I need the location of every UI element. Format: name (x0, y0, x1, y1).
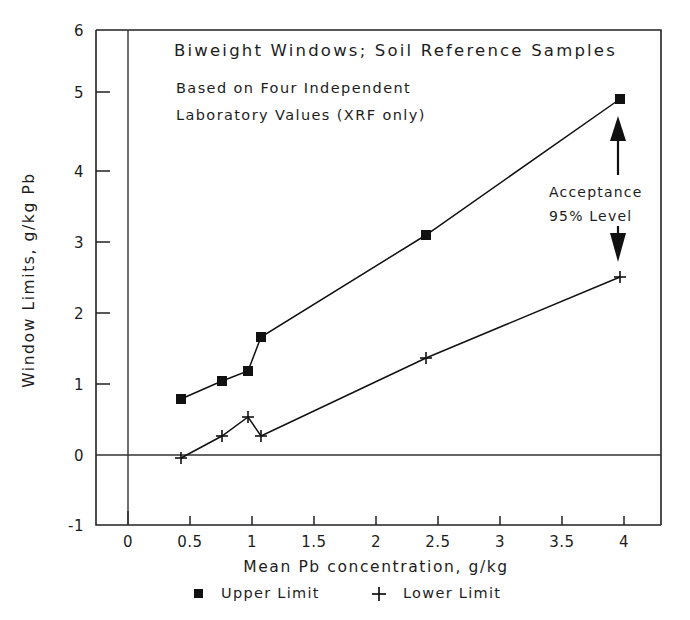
chart-figure: 6 5 4 3 2 1 0 -1 0 0.5 1 1.5 2 (0, 0, 690, 620)
y-axis-title: Window Limits, g/kg Pb (20, 172, 38, 388)
y-axis-ticks (96, 92, 110, 384)
x-axis-title: Mean Pb concentration, g/kg (243, 558, 509, 576)
x-tick-label-1: 1 (247, 533, 257, 551)
y-tick-label-3: 3 (74, 234, 84, 252)
annotation-label-line-2: 95% Level (549, 208, 632, 224)
annotation-label-line-1: Acceptance (549, 184, 642, 200)
x-tick-label-4: 4 (619, 533, 629, 551)
data-point-marker (421, 230, 431, 240)
chart-title: Biweight Windows; Soil Reference Samples (174, 41, 617, 60)
y-tick-label-2: 2 (74, 305, 84, 323)
data-point-marker (256, 332, 266, 342)
x-tick-label-1.5: 1.5 (301, 533, 326, 551)
y-tick-label-1: 1 (74, 376, 84, 394)
chart-subtitle-line-1: Based on Four Independent (176, 80, 411, 96)
x-tick-label-0.5: 0.5 (177, 533, 202, 551)
y-tick-label-0: 0 (74, 447, 84, 465)
data-point-marker (217, 376, 227, 386)
y-tick-label-4: 4 (74, 163, 84, 181)
x-tick-label-2: 2 (371, 533, 381, 551)
y-tick-label-neg1: -1 (68, 517, 84, 535)
axis-frame-left-bottom (96, 30, 661, 525)
x-tick-label-0: 0 (123, 533, 133, 551)
x-tick-label-3: 3 (495, 533, 505, 551)
annotation-down-arrow-head (610, 233, 626, 262)
series-upper-limit (176, 94, 625, 404)
legend-marker-square-icon (194, 589, 203, 598)
x-axis-ticks (128, 511, 624, 525)
x-tick-label-2.5: 2.5 (425, 533, 450, 551)
y-axis-tick-labels: 6 5 4 3 2 1 0 -1 (68, 22, 84, 535)
chart-subtitle-line-2: Laboratory Values (XRF only) (176, 107, 426, 123)
data-point-marker (243, 366, 253, 376)
chart-svg: 6 5 4 3 2 1 0 -1 0 0.5 1 1.5 2 (0, 0, 690, 620)
y-tick-label-5: 5 (74, 84, 84, 102)
axis-frame-top-right (96, 30, 661, 525)
series-upper-limit-line (181, 99, 620, 399)
acceptance-annotation: Acceptance 95% Level (549, 116, 642, 262)
lower-limit-markers (175, 271, 626, 464)
chart-legend: Upper Limit Lower Limit (194, 585, 501, 601)
annotation-up-arrow-head (610, 116, 626, 141)
series-lower-limit (175, 271, 626, 464)
plot-frame (96, 30, 661, 525)
legend-marker-plus-icon (372, 587, 386, 601)
legend-label-upper-limit: Upper Limit (221, 585, 320, 601)
data-point-marker (615, 94, 625, 104)
legend-label-lower-limit: Lower Limit (403, 585, 501, 601)
data-point-marker (176, 394, 186, 404)
y-tick-label-6: 6 (74, 22, 84, 40)
x-tick-label-3.5: 3.5 (549, 533, 574, 551)
x-axis-tick-labels: 0 0.5 1 1.5 2 2.5 3 3.5 4 (123, 533, 629, 551)
